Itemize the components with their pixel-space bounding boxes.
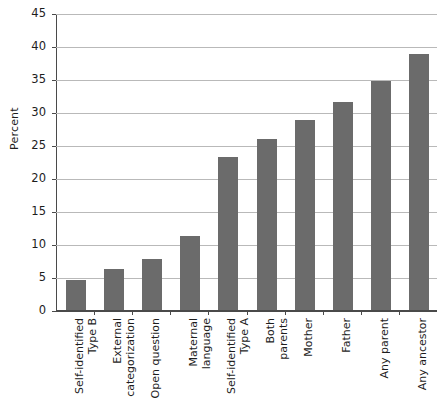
y-axis-tick-labels: 051015202530354045 (0, 14, 52, 311)
bar-series (56, 14, 437, 311)
x-tick-mark-5 (247, 311, 248, 315)
bar (333, 102, 353, 311)
x-tick-label: Both parents (265, 318, 290, 404)
x-tick-mark-1 (94, 311, 95, 315)
x-tick-mark-8 (361, 311, 362, 315)
x-tick-label: External categorization (112, 318, 137, 404)
x-tick-label: Mother (303, 318, 316, 404)
y-tick-label-30: 30 (31, 107, 46, 119)
x-tick-mark-6 (285, 311, 286, 315)
y-tick-label-0: 0 (39, 305, 46, 317)
y-tick-label-5: 5 (39, 272, 46, 284)
bar (257, 139, 277, 311)
x-tick-label: Maternal language (188, 318, 213, 404)
x-tick-mark-9 (399, 311, 400, 315)
x-tick-label: Self-identified Type B (74, 318, 99, 404)
bar (142, 259, 162, 311)
bar (409, 54, 429, 311)
y-tick-label-45: 45 (31, 8, 46, 20)
x-tick-label: Any ancestor (417, 318, 430, 404)
x-tick-mark-4 (208, 311, 209, 315)
y-tick-label-10: 10 (31, 239, 46, 251)
y-tick-label-40: 40 (31, 41, 46, 53)
x-tick-mark-7 (323, 311, 324, 315)
x-tick-mark-2 (132, 311, 133, 315)
bar (180, 236, 200, 311)
y-tick-label-15: 15 (31, 206, 46, 218)
y-tick-label-35: 35 (31, 74, 46, 86)
y-tick-mark-0 (52, 311, 56, 312)
bar (66, 280, 86, 311)
y-tick-label-20: 20 (31, 173, 46, 185)
y-tick-label-25: 25 (31, 140, 46, 152)
bar (371, 81, 391, 311)
bar (104, 269, 124, 311)
bar (218, 157, 238, 311)
plot-area (56, 14, 437, 311)
x-tick-mark-3 (170, 311, 171, 315)
x-tick-label: Any parent (379, 318, 392, 404)
bar-chart: Percent 051015202530354045 Self-identifi… (0, 0, 446, 404)
x-tick-label: Father (341, 318, 354, 404)
bar (295, 120, 315, 311)
x-axis-tick-labels: Self-identified Type BExternal categoriz… (56, 318, 437, 404)
x-tick-label: Self-identified Type A (226, 318, 251, 404)
x-tick-label: Open question (150, 318, 163, 404)
